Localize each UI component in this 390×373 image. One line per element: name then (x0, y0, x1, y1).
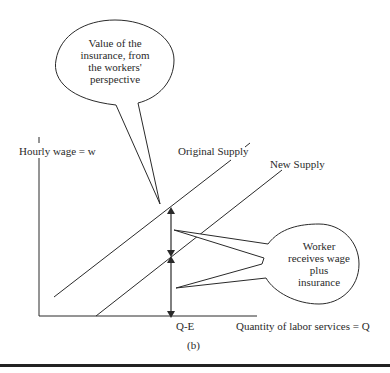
top-callout-line: insurance, from (70, 49, 160, 61)
top-callout-line: the workers' (70, 61, 160, 73)
right-callout-line: insurance (274, 276, 364, 288)
right-callout-text: Worker receives wage plus insurance (274, 240, 364, 288)
original-supply-line (54, 160, 231, 297)
new-supply-label: New Supply (270, 158, 325, 170)
diagram-canvas (0, 0, 390, 373)
x-marker-label: Q-E (176, 320, 194, 332)
wage-plus-insurance-arrows (167, 207, 175, 318)
x-axis-label: Quantity of labor services = Q (236, 320, 370, 332)
figure-caption: (b) (187, 339, 200, 351)
right-callout-line: plus (274, 264, 364, 276)
top-callout-line: perspective (70, 73, 160, 85)
right-callout-line: receives wage (274, 252, 364, 264)
original-supply-label: Original Supply (178, 145, 249, 157)
bottom-rule (0, 364, 390, 367)
right-callout-line: Worker (274, 240, 364, 252)
y-axis-label: Hourly wage = w (19, 145, 96, 157)
top-callout-text: Value of the insurance, from the workers… (70, 37, 160, 85)
top-callout-line: Value of the (70, 37, 160, 49)
